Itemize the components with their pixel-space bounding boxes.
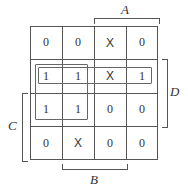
label-c: C — [8, 118, 17, 134]
kmap-cell: 0 — [126, 127, 158, 161]
kmap-cell: X — [94, 26, 126, 60]
bracket-c — [22, 93, 28, 162]
label-b: B — [90, 172, 98, 188]
kmap-cell: 0 — [30, 26, 62, 60]
bracket-b — [62, 164, 128, 170]
kmap-cell: 0 — [94, 127, 126, 161]
kmap-cell: 0 — [30, 127, 62, 161]
kmap-cell: 0 — [126, 93, 158, 127]
kmap-cell: 0 — [94, 93, 126, 127]
kmap-cell: 0 — [126, 26, 158, 60]
bracket-a — [94, 18, 160, 24]
group-loop-square — [35, 64, 88, 120]
label-d: D — [170, 84, 179, 100]
kmap-cell: X — [62, 127, 94, 161]
label-a: A — [121, 2, 129, 18]
kmap-cell: 0 — [62, 26, 94, 60]
bracket-d — [162, 59, 168, 128]
